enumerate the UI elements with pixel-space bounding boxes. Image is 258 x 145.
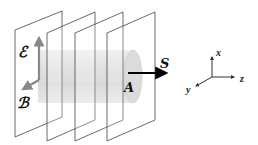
- y-axis-label: y: [185, 84, 191, 95]
- magnetic-field-label: ℬ: [17, 94, 31, 112]
- y-axis-arrow: [196, 77, 212, 86]
- wave-plate-4: [107, 12, 155, 141]
- area-label: A: [122, 80, 134, 95]
- em-wave-diagram: ℰ ℬ S A x z y: [0, 0, 258, 145]
- x-axis-label: x: [215, 47, 221, 58]
- poynting-vector-label: S: [160, 56, 169, 71]
- coordinate-axes: x z y: [185, 47, 244, 95]
- z-axis-label: z: [239, 73, 244, 84]
